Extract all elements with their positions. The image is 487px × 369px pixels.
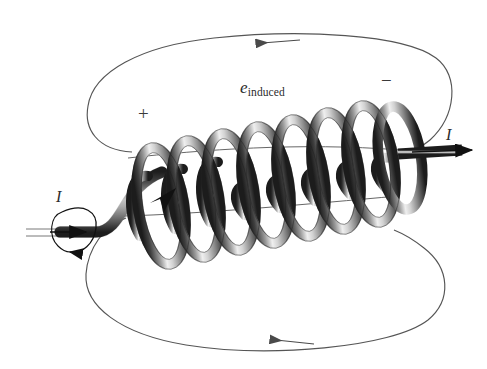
coil-turn-5	[269, 116, 333, 240]
polarity-minus-marker: −	[381, 70, 392, 92]
coil-turn-6	[304, 109, 368, 233]
solenoid-coil	[123, 96, 429, 273]
coil-turn-3	[199, 130, 263, 254]
emf-subscript: induced	[248, 86, 285, 98]
solenoid-induced-emf-figure: einduced I I + −	[0, 0, 487, 369]
polarity-plus-marker: +	[138, 103, 149, 125]
upper-field-arrowhead	[262, 40, 300, 43]
coil-turn-2	[164, 137, 228, 261]
coil-front-turns	[129, 102, 429, 268]
current-label-right: I	[446, 126, 451, 144]
coil-turn-4	[234, 123, 298, 247]
figure-canvas	[0, 0, 487, 369]
emf-symbol: e	[240, 78, 248, 97]
lower-field-arrowhead	[276, 340, 314, 344]
left-lead-tube-outline	[60, 172, 162, 232]
coil-turn-1	[129, 144, 193, 268]
emf-label: einduced	[240, 78, 285, 98]
current-label-left: I	[56, 188, 61, 206]
right-lead-wire	[398, 150, 472, 154]
